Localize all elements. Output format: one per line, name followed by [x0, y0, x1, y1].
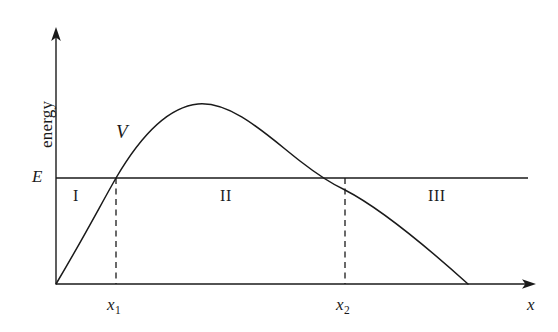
potential-curve-label: V	[116, 122, 128, 141]
x-axis-label: x	[527, 296, 535, 313]
plot-canvas	[0, 0, 558, 332]
y-axis	[51, 27, 61, 284]
region-label-three: III	[428, 188, 446, 204]
tick-label-x1-base: x	[107, 295, 115, 314]
tick-label-x2-base: x	[336, 295, 344, 314]
y-axis-label: energy	[38, 101, 55, 148]
tick-label-x2-subscript: 2	[344, 304, 350, 316]
tick-label-x1: x1	[107, 296, 120, 313]
tick-label-x2: x2	[336, 296, 349, 313]
tick-label-x1-subscript: 1	[115, 304, 121, 316]
region-label-one: I	[73, 188, 79, 204]
energy-diagram-figure: energy x E V I II III x1 x2	[0, 0, 558, 332]
energy-level-label: E	[32, 168, 42, 185]
region-label-two: II	[220, 188, 232, 204]
